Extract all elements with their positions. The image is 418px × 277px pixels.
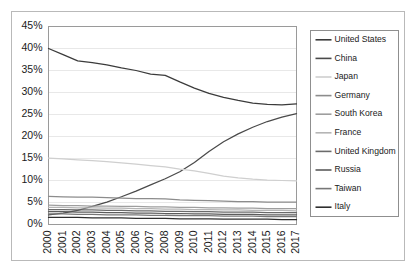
y-axis-tick-label: 35% xyxy=(21,63,42,75)
series-line-germany xyxy=(49,196,297,202)
x-axis-tick-label: 2006 xyxy=(129,230,141,254)
x-axis-tick-label: 2001 xyxy=(56,230,68,254)
y-axis-tick-label: 20% xyxy=(21,129,42,141)
legend-label: China xyxy=(335,53,358,63)
x-axis-tick-label: 2002 xyxy=(70,230,82,254)
x-axis-tick-label: 2017 xyxy=(289,230,301,254)
series-line-italy xyxy=(49,217,297,219)
x-axis-tick-label: 2004 xyxy=(100,230,112,254)
line-chart: 0%5%10%15%20%25%30%35%40%45% 20002001200… xyxy=(0,0,418,277)
legend-label: France xyxy=(335,127,362,137)
y-axis-tick-labels: 0%5%10%15%20%25%30%35%40%45% xyxy=(21,19,42,229)
x-axis-tick-label: 2012 xyxy=(216,230,228,254)
y-axis-tick-label: 30% xyxy=(21,85,42,97)
x-axis-tick-label: 2016 xyxy=(275,230,287,254)
gridlines xyxy=(49,27,297,203)
y-axis-tick-label: 5% xyxy=(27,195,42,207)
legend-label: Germany xyxy=(335,90,371,100)
series-line-japan xyxy=(49,158,297,181)
data-series xyxy=(49,49,297,220)
legend-label: Italy xyxy=(335,201,351,211)
x-axis-tick-label: 2010 xyxy=(187,230,199,254)
x-axis-tick-label: 2005 xyxy=(114,230,126,254)
legend-label: Japan xyxy=(335,71,359,81)
y-axis-tick-label: 0% xyxy=(27,217,42,229)
legend-label: Russia xyxy=(335,164,361,174)
x-axis-tick-labels: 2000200120022003200420052006200720082009… xyxy=(41,230,301,254)
y-axis-tick-label: 45% xyxy=(21,19,42,31)
chart-figure: 0%5%10%15%20%25%30%35%40%45% 20002001200… xyxy=(0,0,418,277)
y-axis-tick-label: 10% xyxy=(21,173,42,185)
y-axis-tick-label: 15% xyxy=(21,151,42,163)
series-line-united-states xyxy=(49,49,297,105)
x-axis-tick-label: 2013 xyxy=(231,230,243,254)
x-axis-tick-label: 2014 xyxy=(246,230,258,254)
plot-area-border xyxy=(49,27,297,225)
x-axis-tick-label: 2015 xyxy=(260,230,272,254)
legend-label: United States xyxy=(335,34,387,44)
y-axis-tick-label: 25% xyxy=(21,107,42,119)
x-axis-tick-label: 2008 xyxy=(158,230,170,254)
x-axis-tick-label: 2003 xyxy=(85,230,97,254)
x-axis-tick-label: 2011 xyxy=(202,230,214,253)
y-axis-tick-label: 40% xyxy=(21,41,42,53)
legend-label: United Kingdom xyxy=(335,146,396,156)
legend-label: South Korea xyxy=(335,108,383,118)
x-axis-tick-label: 2000 xyxy=(41,230,53,254)
x-axis-tick-label: 2007 xyxy=(143,230,155,254)
x-axis-tick-label: 2009 xyxy=(173,230,185,254)
legend-label: Taiwan xyxy=(335,183,362,193)
